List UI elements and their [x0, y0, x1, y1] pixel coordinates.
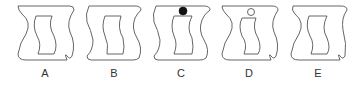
- wave-frame-shape-a: [10, 0, 80, 66]
- wave-frame-shape-e: [283, 0, 353, 66]
- figure-label: B: [79, 67, 149, 79]
- figure-label: C: [146, 67, 216, 79]
- figure-label: D: [214, 67, 284, 79]
- figure-b: B: [79, 0, 149, 87]
- figure-e: E: [283, 0, 353, 87]
- hollow-dot-icon: [248, 9, 255, 16]
- wave-frame-shape-c: [146, 0, 216, 66]
- wave-frame-shape-d: [214, 0, 284, 66]
- figure-label: E: [283, 67, 353, 79]
- figure-label: A: [10, 67, 80, 79]
- figure-d: D: [214, 0, 284, 87]
- filled-dot-icon: [179, 7, 187, 15]
- figure-c: C: [146, 0, 216, 87]
- figure-a: A: [10, 0, 80, 87]
- wave-frame-shape-b: [79, 0, 149, 66]
